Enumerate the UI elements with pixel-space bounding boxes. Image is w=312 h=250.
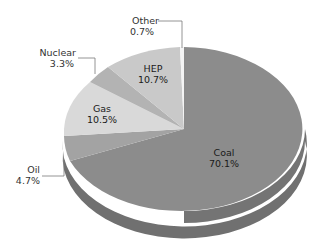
label-nuclear-name: Nuclear — [39, 47, 76, 58]
label-hep-name: HEP — [144, 63, 163, 74]
label-coal-name: Coal — [214, 147, 235, 158]
label-oil-name: Oil — [27, 164, 40, 175]
pie-top — [64, 47, 302, 211]
leader-other — [158, 21, 182, 48]
leader-oil — [42, 160, 64, 176]
label-oil-pct: 4.7% — [16, 175, 40, 186]
label-other-pct: 0.7% — [130, 26, 154, 37]
label-coal-pct: 70.1% — [209, 158, 239, 169]
label-nuclear-pct: 3.3% — [50, 58, 74, 69]
pie-chart: Other 0.7% Nuclear 3.3% HEP 10.7% Gas 10… — [0, 0, 312, 250]
label-gas-name: Gas — [93, 103, 111, 114]
label-gas-pct: 10.5% — [87, 114, 117, 125]
label-hep-pct: 10.7% — [138, 74, 168, 85]
leader-nuclear — [78, 58, 95, 74]
label-other-name: Other — [132, 15, 159, 26]
